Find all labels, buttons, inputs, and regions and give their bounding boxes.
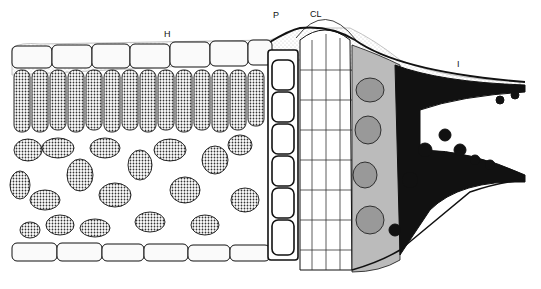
spongy-mesophyll — [10, 135, 259, 238]
label-p: P — [273, 10, 279, 20]
diagram-drawing — [0, 0, 541, 289]
palisade-layer — [14, 70, 264, 132]
chlorenchyma-region — [296, 19, 356, 270]
leaf-cross-section-diagram: H P CL I — [0, 0, 541, 289]
intervening-tissue — [352, 45, 400, 272]
label-i: I — [457, 59, 460, 69]
lower-epidermis — [12, 243, 270, 261]
label-h: H — [164, 29, 171, 39]
parenchyma-column — [268, 50, 298, 260]
label-cl: CL — [310, 9, 322, 19]
